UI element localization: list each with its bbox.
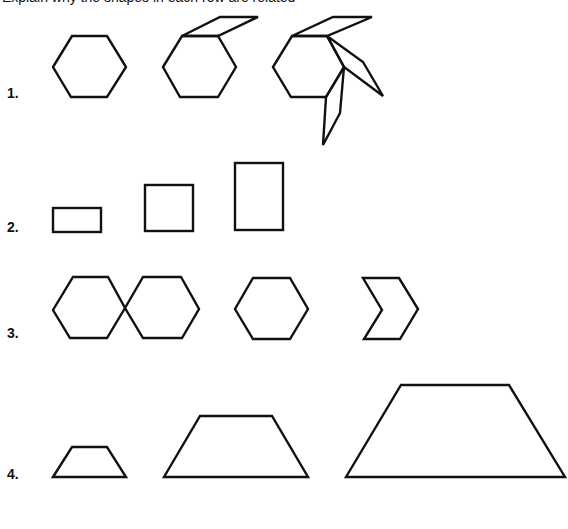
- row3-chevron: [363, 278, 418, 339]
- row4-small-trapezoid: [53, 447, 126, 477]
- cut-off-heading: Explain why the shapes in each row are r…: [2, 0, 295, 5]
- hexagon: [163, 36, 236, 97]
- row2-short-rectangle: [53, 208, 101, 232]
- row1-hexagon-with-three-rhombi: [273, 17, 383, 145]
- row-3-label: 3.: [7, 325, 19, 341]
- row4-large-trapezoid: [346, 385, 565, 477]
- rhombus-top: [182, 17, 258, 36]
- rhombus-right: [327, 36, 383, 96]
- row-1-figures: [53, 17, 383, 145]
- pattern-worksheet: Explain why the shapes in each row are r…: [0, 0, 568, 529]
- row-3-figures: [53, 277, 418, 339]
- row-2-figures: [53, 163, 283, 232]
- hexagon-left: [53, 277, 125, 338]
- rhombus-top: [292, 17, 372, 36]
- row-1-label: 1.: [7, 85, 19, 101]
- row-4-label: 4.: [7, 466, 19, 482]
- row1-hexagon-with-one-rhombus: [163, 17, 258, 97]
- hexagon-right: [125, 277, 199, 338]
- row3-double-hexagon: [53, 277, 199, 338]
- rhombus-bottom: [323, 67, 344, 145]
- row2-square: [145, 185, 193, 231]
- row-2-label: 2.: [7, 219, 19, 235]
- row2-tall-rectangle: [235, 163, 283, 230]
- row1-hexagon: [53, 36, 126, 97]
- row-4-figures: [53, 385, 565, 477]
- row4-medium-trapezoid: [164, 416, 308, 477]
- row3-hexagon: [235, 278, 308, 339]
